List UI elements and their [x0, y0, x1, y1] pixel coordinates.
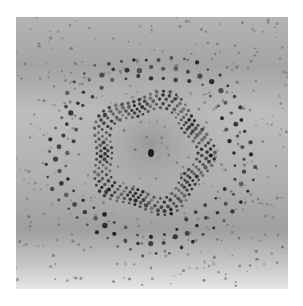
diffraction-spot	[109, 163, 112, 166]
diffraction-spot	[166, 146, 169, 149]
diffraction-spot	[201, 83, 204, 86]
diffraction-spot	[224, 128, 228, 132]
diffraction-spot	[158, 98, 161, 101]
diffraction-spot	[198, 183, 200, 185]
diffraction-spot	[156, 201, 159, 204]
diffraction-spot	[260, 202, 263, 205]
diffraction-spot	[170, 100, 174, 104]
diffraction-spot	[187, 125, 191, 129]
diffraction-spot	[203, 136, 207, 140]
diffraction-spot	[79, 83, 81, 85]
diffraction-spot	[71, 118, 73, 120]
diffraction-spot	[209, 79, 214, 84]
diffraction-spot	[136, 115, 139, 118]
diffraction-spot	[149, 235, 153, 239]
diffraction-spot	[190, 188, 193, 191]
diffraction-spot	[194, 210, 198, 214]
diffraction-spot	[79, 277, 82, 280]
diffraction-spot	[167, 178, 169, 180]
diffraction-spot	[239, 118, 243, 122]
diffraction-spot	[191, 179, 194, 182]
diffraction-spot	[137, 68, 142, 73]
diffraction-spot	[230, 209, 234, 213]
diffraction-spot	[279, 102, 282, 105]
diffraction-spot	[175, 116, 178, 119]
diffraction-spot	[208, 91, 210, 93]
diffraction-spot	[98, 189, 102, 193]
diffraction-spot	[98, 143, 102, 147]
diffraction-spot	[108, 133, 111, 136]
diffraction-spot	[162, 241, 166, 245]
diffraction-spot	[209, 138, 212, 141]
diffraction-spot	[173, 97, 177, 101]
diffraction-spot	[72, 190, 75, 193]
diffraction-spot	[178, 122, 181, 125]
diffraction-spot	[106, 116, 109, 119]
diffraction-spot	[133, 111, 137, 115]
diffraction-spot	[98, 138, 101, 141]
diffraction-spot	[175, 161, 178, 164]
diffraction-spot	[163, 200, 166, 203]
diffraction-spot	[123, 190, 126, 193]
diffraction-spot	[137, 196, 140, 199]
diffraction-spot	[27, 170, 30, 173]
diffraction-spot	[70, 200, 72, 202]
diffraction-spot	[48, 150, 51, 153]
diffraction-spot	[64, 79, 67, 82]
diffraction-spot	[161, 50, 164, 53]
diffraction-spot	[255, 124, 257, 126]
diffraction-spot	[198, 160, 201, 163]
diffraction-spot	[134, 148, 137, 151]
diffraction-spot	[172, 202, 175, 205]
diffraction-spot	[199, 171, 202, 174]
diffraction-spot	[180, 176, 183, 179]
diffraction-spot	[164, 255, 167, 258]
diffraction-spot	[160, 205, 164, 209]
diffraction-spot	[187, 239, 189, 241]
diffraction-spot	[182, 116, 185, 119]
diffraction-spot	[247, 163, 249, 165]
diffraction-spot	[155, 177, 158, 180]
diffraction-pattern-photo	[16, 17, 288, 289]
diffraction-spot	[74, 128, 78, 132]
diffraction-spot	[70, 213, 72, 215]
diffraction-spot	[105, 173, 108, 176]
diffraction-spot	[203, 93, 206, 96]
diffraction-spot	[24, 63, 27, 66]
diffraction-spot	[39, 77, 42, 80]
diffraction-spot	[74, 88, 76, 90]
diffraction-spot	[212, 260, 214, 262]
diffraction-spot	[242, 208, 245, 211]
diffraction-spot	[95, 158, 98, 161]
diffraction-spot	[226, 66, 229, 69]
diffraction-spot	[168, 90, 172, 94]
diffraction-spot	[147, 110, 150, 113]
diffraction-spot	[107, 179, 111, 183]
diffraction-spot	[217, 191, 219, 193]
diffraction-spot	[248, 108, 251, 111]
diffraction-spot	[145, 136, 148, 139]
diffraction-spot	[213, 256, 216, 259]
diffraction-spot	[208, 265, 210, 267]
diffraction-spot	[136, 108, 139, 111]
diffraction-spot	[161, 93, 165, 97]
diffraction-spot	[102, 109, 105, 112]
diffraction-spot	[145, 196, 148, 199]
diffraction-spot	[251, 200, 253, 202]
diffraction-spot	[256, 51, 258, 53]
diffraction-spot	[163, 233, 166, 236]
diffraction-spot	[57, 169, 61, 173]
diffraction-spot	[87, 174, 89, 176]
diffraction-spot	[250, 60, 253, 63]
diffraction-spot	[140, 105, 144, 109]
diffraction-spot	[110, 102, 112, 104]
diffraction-spot	[123, 239, 127, 243]
diffraction-spot	[71, 240, 74, 243]
diffraction-spot	[20, 77, 22, 79]
diffraction-spot	[199, 71, 201, 73]
diffraction-spot	[150, 199, 153, 202]
diffraction-spot	[24, 169, 27, 172]
diffraction-spot	[142, 235, 145, 238]
diffraction-spot	[187, 79, 191, 83]
diffraction-spot	[280, 128, 282, 130]
